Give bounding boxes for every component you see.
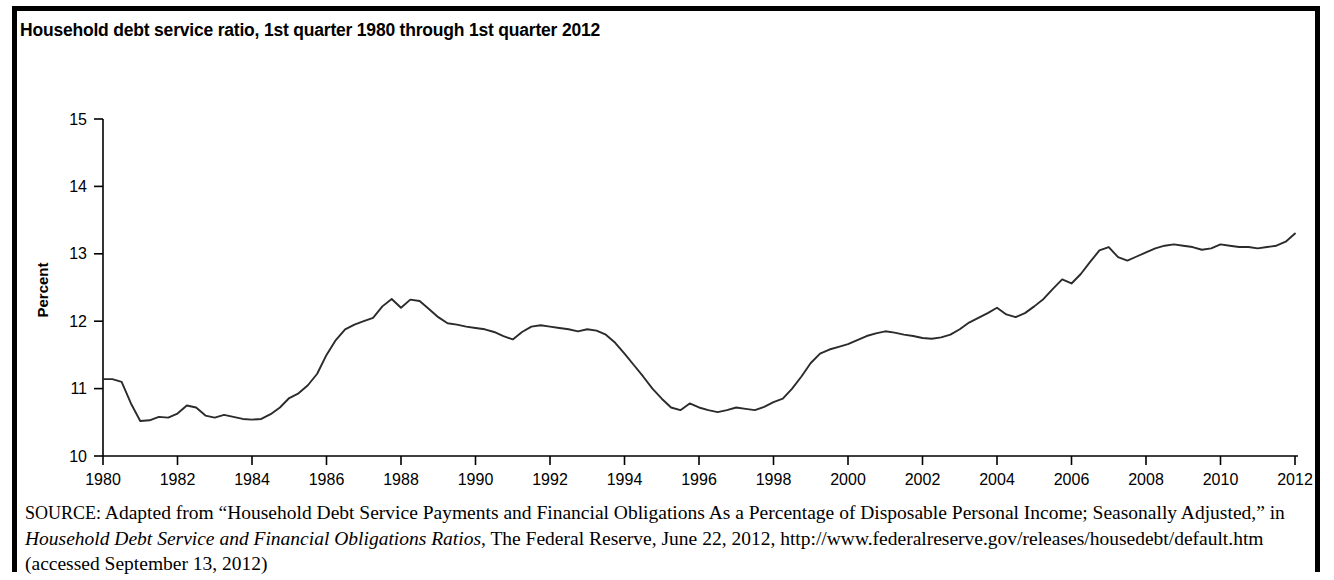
source-note: SOURCE: Adapted from “Household Debt Ser…	[25, 500, 1310, 576]
source-publication-title: Household Debt Service and Financial Obl…	[25, 528, 481, 549]
y-axis-tick-label: 13	[69, 245, 87, 262]
x-axis-tick-label: 1984	[234, 471, 270, 488]
line-chart-svg: 101112131415 198019821984198619881990199…	[0, 0, 1334, 500]
x-axis-tick-label: 1988	[383, 471, 419, 488]
chart-plot-area: 101112131415 198019821984198619881990199…	[0, 0, 1334, 500]
x-axis-tick-label: 2004	[979, 471, 1015, 488]
x-axis-tick-label: 1992	[532, 471, 568, 488]
source-label: SOURCE:	[25, 503, 101, 523]
y-axis: 101112131415	[69, 111, 103, 465]
x-axis-tick-label: 1982	[160, 471, 196, 488]
x-axis-tick-label: 2006	[1054, 471, 1090, 488]
x-axis-tick-label: 1996	[681, 471, 717, 488]
x-axis: 1980198219841986198819901992199419961998…	[85, 456, 1313, 488]
y-axis-tick-label: 10	[69, 448, 87, 465]
x-axis-tick-label: 2010	[1203, 471, 1239, 488]
x-axis-tick-label: 1994	[607, 471, 643, 488]
x-axis-tick-label: 2012	[1277, 471, 1313, 488]
x-axis-tick-label: 1990	[458, 471, 494, 488]
y-axis-title: Percent	[34, 262, 51, 317]
y-axis-tick-label: 15	[69, 111, 87, 128]
x-axis-tick-label: 2008	[1128, 471, 1164, 488]
x-axis-tick-label: 1980	[85, 471, 121, 488]
x-axis-tick-label: 1986	[309, 471, 345, 488]
source-text-part1: Adapted from “Household Debt Service Pay…	[101, 502, 1285, 523]
x-axis-tick-label: 2002	[905, 471, 941, 488]
y-axis-tick-label: 11	[70, 380, 87, 397]
data-line-0	[103, 234, 1295, 421]
y-axis-tick-label: 14	[69, 178, 87, 195]
y-axis-tick-label: 12	[69, 313, 87, 330]
data-series-group	[103, 234, 1295, 421]
x-axis-tick-label: 2000	[830, 471, 866, 488]
x-axis-tick-label: 1998	[756, 471, 792, 488]
